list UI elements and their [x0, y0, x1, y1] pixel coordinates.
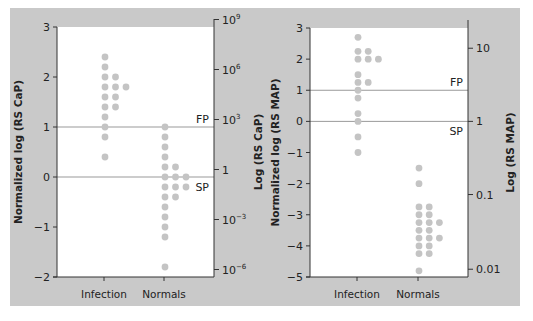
- map-normals-dot: [436, 219, 443, 226]
- map-y-axis-title: Normalized log (RS MAP): [269, 79, 281, 227]
- cap-right-tick-label: 10−3: [222, 213, 246, 227]
- cap-right-tick-label: 109: [222, 13, 240, 27]
- map-category-label: Infection: [334, 288, 380, 300]
- cap-infection-dot: [112, 104, 119, 111]
- map-normals-dot: [426, 242, 433, 249]
- map-normals-dot: [416, 211, 423, 218]
- map-infection-dot: [355, 95, 362, 102]
- map-normals-dot: [426, 250, 433, 257]
- map-normals-dot: [416, 204, 423, 211]
- map-infection-dot: [355, 87, 362, 94]
- cap-sp-label: SP: [195, 181, 209, 194]
- cap-normals-dot: [172, 164, 179, 171]
- map-infection-dot: [355, 79, 362, 86]
- cap-infection-dot: [102, 64, 109, 71]
- map-infection-dot: [365, 48, 372, 55]
- map-normals-dot: [436, 235, 443, 242]
- cap-right-axis-title: Log (RS CaP): [252, 114, 264, 190]
- map-normals-dot: [416, 235, 423, 242]
- map-infection-dot: [355, 48, 362, 55]
- map-normals-dot: [416, 180, 423, 187]
- map-infection-dot: [365, 79, 372, 86]
- cap-normals-dot: [162, 144, 169, 151]
- cap-infection-dot: [123, 84, 130, 91]
- cap-right-tick-label: 1: [222, 164, 229, 177]
- cap-infection-dot: [102, 134, 109, 141]
- cap-y-tick-label: 0: [43, 171, 50, 184]
- cap-infection-dot: [102, 84, 109, 91]
- map-right-tick-label: 1: [476, 115, 483, 128]
- map-right-tick-label: 0.1: [476, 189, 494, 202]
- cap-infection-dot: [112, 84, 119, 91]
- cap-normals-dot: [162, 164, 169, 171]
- map-normals-dot: [416, 227, 423, 234]
- cap-normals-dot: [162, 134, 169, 141]
- map-normals-dot: [416, 250, 423, 257]
- map-y-tick-label: −4: [287, 240, 303, 253]
- cap-category-label: Normals: [142, 288, 185, 300]
- map-y-tick-label: 3: [296, 22, 303, 35]
- cap-normals-dot: [162, 174, 169, 181]
- cap-normals-dot: [162, 214, 169, 221]
- map-category-label: Normals: [396, 288, 439, 300]
- map-infection-dot: [355, 34, 362, 41]
- cap-right-tick-label: 106: [222, 63, 241, 77]
- map-infection-dot: [365, 56, 372, 63]
- cap-y-tick-label: 1: [43, 121, 50, 134]
- cap-normals-dot: [162, 184, 169, 191]
- map-y-tick-label: 0: [296, 115, 303, 128]
- cap-infection-dot: [102, 124, 109, 131]
- map-fp-label: FP: [450, 76, 463, 89]
- cap-infection-dot: [112, 74, 119, 81]
- cap-y-tick-label: 3: [43, 21, 50, 34]
- cap-plot-area: [57, 27, 214, 277]
- map-y-tick-label: 1: [296, 84, 303, 97]
- map-infection-dot: [355, 118, 362, 125]
- cap-y-tick-label: −1: [34, 221, 50, 234]
- map-normals-dot: [416, 165, 423, 172]
- cap-y-tick-label: −2: [34, 271, 50, 284]
- cap-normals-dot: [162, 204, 169, 211]
- map-y-tick-label: −3: [287, 209, 303, 222]
- cap-right-tick-label: 10−6: [222, 263, 247, 277]
- cap-y-tick-label: 2: [43, 71, 50, 84]
- cap-y-axis-title: Normalized log (RS CaP): [12, 80, 24, 224]
- dot-plot-figure: FPSP3210−1−2109106103110−310−6InfectionN…: [0, 0, 533, 321]
- cap-infection-dot: [102, 114, 109, 121]
- map-right-axis-title: Log (RS MAP): [504, 112, 516, 192]
- map-normals-dot: [416, 242, 423, 249]
- cap-infection-dot: [102, 54, 109, 61]
- map-chart: FPSP3210−1−2−3−4−51010.10.01InfectionNor…: [269, 20, 516, 300]
- cap-normals-dot: [183, 184, 190, 191]
- map-y-tick-label: −2: [287, 178, 303, 191]
- map-infection-dot: [355, 71, 362, 78]
- cap-category-label: Infection: [81, 288, 127, 300]
- cap-infection-dot: [102, 154, 109, 161]
- cap-normals-dot: [162, 194, 169, 201]
- map-infection-dot: [375, 56, 382, 63]
- cap-normals-dot: [172, 194, 179, 201]
- map-normals-dot: [416, 267, 423, 274]
- cap-infection-dot: [102, 74, 109, 81]
- cap-normals-dot: [162, 264, 169, 271]
- cap-normals-dot: [162, 234, 169, 241]
- cap-normals-dot: [162, 124, 169, 131]
- map-normals-dot: [426, 211, 433, 218]
- cap-normals-dot: [172, 184, 179, 191]
- map-y-tick-label: 2: [296, 53, 303, 66]
- cap-normals-dot: [183, 174, 190, 181]
- map-infection-dot: [355, 110, 362, 117]
- map-plot-area: [310, 28, 468, 277]
- map-sp-label: SP: [449, 125, 463, 138]
- cap-normals-dot: [172, 174, 179, 181]
- cap-infection-dot: [102, 104, 109, 111]
- cap-normals-dot: [162, 224, 169, 231]
- map-y-tick-label: −5: [287, 271, 303, 284]
- map-normals-dot: [426, 227, 433, 234]
- map-normals-dot: [416, 219, 423, 226]
- cap-infection-dot: [102, 94, 109, 101]
- map-infection-dot: [355, 149, 362, 156]
- map-y-tick-label: −1: [287, 147, 303, 160]
- map-infection-dot: [355, 134, 362, 141]
- map-right-tick-label: 10: [476, 42, 490, 55]
